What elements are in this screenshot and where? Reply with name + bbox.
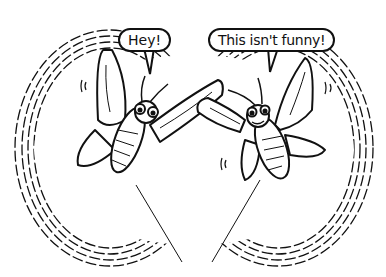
speech-bubble-not-funny: This isn't funny! <box>208 28 335 52</box>
cartoon-scene: Hey! This isn't funny! <box>0 0 386 277</box>
speech-text-hey: Hey! <box>128 32 161 48</box>
speech-text-not-funny: This isn't funny! <box>218 32 325 48</box>
speech-bubble-hey: Hey! <box>118 28 171 52</box>
